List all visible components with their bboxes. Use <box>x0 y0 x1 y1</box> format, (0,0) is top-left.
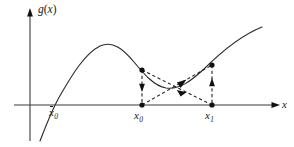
vertical-dashed-x0 <box>139 70 145 105</box>
node-dot-axis-x0 <box>139 102 144 107</box>
x-axis-arrowhead <box>272 102 281 108</box>
vertical-dashed-x1-arrowhead <box>209 78 215 86</box>
iterate-label-x1-subscript: 1 <box>210 115 214 124</box>
node-dot-axis-x1 <box>209 102 214 107</box>
iterate-label-x1: x1 <box>205 110 214 121</box>
plot-canvas <box>0 0 294 147</box>
vertical-dashed-x1 <box>209 65 215 105</box>
iterate-label-x0-subscript: 0 <box>139 115 143 124</box>
y-axis-label: g(x) <box>38 4 57 16</box>
node-dot-curve-x0 <box>139 67 144 72</box>
function-curve <box>40 27 262 141</box>
y-axis-label-close-paren: ) <box>53 3 57 15</box>
x-axis-label: x <box>282 99 287 110</box>
root-label-xbar0-subscript: 0 <box>54 112 58 121</box>
vertical-dashed-x0-arrowhead <box>139 84 145 92</box>
root-label-xbar0: x0 <box>49 107 58 118</box>
node-dot-curve-x1 <box>209 62 214 67</box>
y-axis-arrowhead <box>27 8 33 17</box>
iterate-label-x0: x0 <box>134 110 143 121</box>
newton-iteration-figure: g(x) x0 x0 x1 x <box>0 0 294 147</box>
y-axis <box>27 8 33 141</box>
